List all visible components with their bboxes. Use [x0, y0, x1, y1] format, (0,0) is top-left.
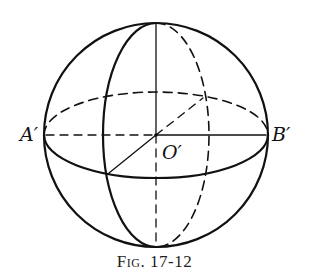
label-o-prime: O′ — [162, 143, 182, 162]
figure-caption: Fig. 17-12 — [0, 252, 309, 272]
center-point — [154, 133, 158, 137]
label-b-prime: B′ — [272, 125, 290, 144]
axis-diagonal-solid — [109, 135, 156, 173]
axis-diagonal-dashed — [156, 98, 203, 135]
label-a-prime: A′ — [20, 125, 38, 144]
sphere-drawing — [0, 0, 309, 280]
sphere-diagram: A′ B′ O′ Fig. 17-12 — [0, 0, 309, 280]
